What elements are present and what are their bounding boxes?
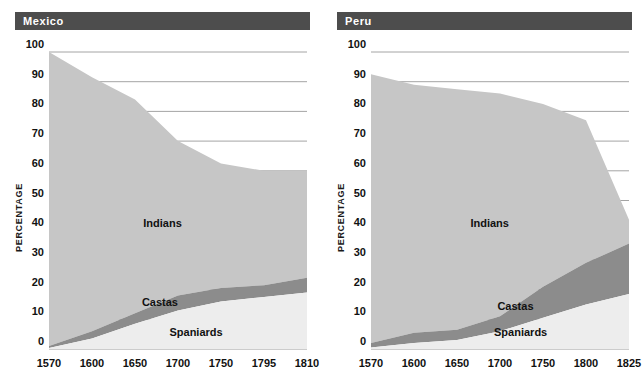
plot-area-mexico bbox=[0, 0, 322, 389]
y-tick-label: 90 bbox=[10, 68, 44, 80]
plot-area-peru bbox=[322, 0, 644, 389]
y-tick-label: 30 bbox=[332, 246, 366, 258]
y-tick-label: 60 bbox=[332, 157, 366, 169]
y-tick-label: 90 bbox=[332, 68, 366, 80]
y-tick-label: 10 bbox=[10, 305, 44, 317]
series-label-indians: Indians bbox=[135, 217, 191, 229]
y-tick-label: 50 bbox=[332, 187, 366, 199]
population-composition-figure: Mexico PERCENTAGE 0102030405060708090100… bbox=[0, 0, 644, 389]
y-tick-label: 40 bbox=[332, 216, 366, 228]
x-tick-label: 1825 bbox=[604, 357, 644, 369]
y-tick-label: 40 bbox=[10, 216, 44, 228]
y-tick-label: 70 bbox=[10, 127, 44, 139]
series-label-spaniards: Spaniards bbox=[168, 326, 224, 338]
y-tick-label: 20 bbox=[10, 276, 44, 288]
series-label-indians: Indians bbox=[462, 217, 518, 229]
y-tick-label: 60 bbox=[10, 157, 44, 169]
chart-panel-mexico: Mexico PERCENTAGE 0102030405060708090100… bbox=[0, 0, 322, 389]
y-tick-label: 80 bbox=[332, 97, 366, 109]
y-tick-label: 10 bbox=[332, 305, 366, 317]
series-label-castas: Castas bbox=[132, 296, 188, 308]
chart-panel-peru: Peru PERCENTAGE 0102030405060708090100 1… bbox=[322, 0, 644, 389]
y-tick-label: 30 bbox=[10, 246, 44, 258]
y-tick-label: 70 bbox=[332, 127, 366, 139]
series-label-castas: Castas bbox=[487, 300, 543, 312]
y-tick-label: 20 bbox=[332, 276, 366, 288]
y-tick-label: 80 bbox=[10, 97, 44, 109]
y-tick-label: 0 bbox=[332, 335, 366, 347]
y-tick-label: 0 bbox=[10, 335, 44, 347]
y-tick-label: 100 bbox=[332, 38, 366, 50]
series-label-spaniards: Spaniards bbox=[493, 326, 549, 338]
y-tick-label: 50 bbox=[10, 187, 44, 199]
y-tick-label: 100 bbox=[10, 38, 44, 50]
